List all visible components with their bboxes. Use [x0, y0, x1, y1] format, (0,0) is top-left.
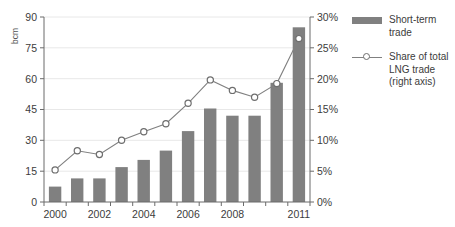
left-axis-ticks: 0153045607590: [25, 11, 44, 208]
y2-tick-label: 10%: [317, 134, 338, 146]
legend-item-short-term-trade: Short-term trade: [352, 14, 455, 39]
marker-2006: [185, 100, 191, 106]
marker-2001: [74, 148, 80, 154]
bar-2002: [93, 178, 105, 202]
line-path: [55, 39, 299, 170]
chart-figure: 0153045607590 0%5%10%15%20%25%30% 200020…: [0, 0, 455, 227]
y2-tick-label: 5%: [317, 165, 332, 177]
marker-2003: [119, 137, 125, 143]
y-tick-label: 90: [25, 11, 37, 23]
legend-label-short-term-trade: Short-term trade: [389, 14, 436, 39]
marker-2000: [52, 167, 58, 173]
bar-series: [49, 27, 305, 202]
marker-2007: [207, 77, 213, 83]
y2-tick-label: 15%: [317, 103, 338, 115]
legend-label-share-of-total-lng-trade: Share of total LNG trade (right axis): [389, 51, 448, 89]
line-series: [55, 39, 299, 170]
x-tick-label: 2011: [288, 208, 311, 220]
x-tick-label: 2006: [176, 208, 200, 220]
y-tick-label: 75: [25, 42, 37, 54]
y-tick-label: 15: [25, 165, 37, 177]
legend-item-share-of-total-lng-trade: Share of total LNG trade (right axis): [352, 51, 455, 89]
y-tick-label: 60: [25, 73, 37, 85]
chart-legend: Short-term trade Share of total LNG trad…: [352, 14, 455, 101]
bar-2005: [160, 151, 172, 202]
y-tick-label: 30: [25, 134, 37, 146]
marker-2011: [296, 36, 302, 42]
bar-swatch-icon: [352, 14, 382, 28]
marker-2002: [96, 151, 102, 157]
marker-2008: [229, 87, 235, 93]
bar-2004: [138, 160, 150, 202]
bar-2009: [248, 116, 260, 202]
x-tick-label: 2002: [88, 208, 112, 220]
y2-tick-label: 0%: [317, 196, 332, 208]
y-axis-title: bcm: [10, 28, 20, 44]
y2-tick-label: 20%: [317, 73, 338, 85]
y-tick-label: 0: [31, 196, 37, 208]
y2-tick-label: 30%: [317, 11, 338, 23]
bar-2010: [271, 83, 283, 202]
marker-2010: [274, 81, 280, 87]
bar-2008: [226, 116, 238, 202]
bar-2003: [115, 167, 127, 202]
y2-tick-label: 25%: [317, 42, 338, 54]
gridlines: [44, 17, 310, 171]
line-marker-icon: [352, 51, 382, 65]
bar-2001: [71, 178, 83, 202]
right-axis-ticks: 0%5%10%15%20%25%30%: [310, 11, 338, 208]
bar-2011: [293, 27, 305, 202]
bar-2000: [49, 187, 61, 202]
bar-2006: [182, 131, 194, 202]
marker-2009: [252, 94, 258, 100]
marker-2005: [163, 121, 169, 127]
x-tick-label: 2008: [221, 208, 245, 220]
bar-2007: [204, 109, 216, 203]
x-tick-label: 2004: [132, 208, 156, 220]
marker-2004: [141, 129, 147, 135]
x-tick-label: 2000: [43, 208, 67, 220]
x-axis-ticks: 200020022004200620082011: [43, 202, 310, 220]
y-tick-label: 45: [25, 103, 37, 115]
